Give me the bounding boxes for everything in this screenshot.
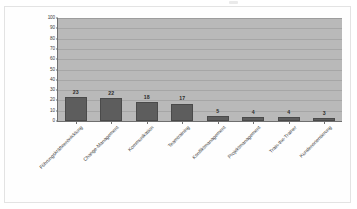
x-axis-category-label: Train-the-Trainer: [268, 125, 297, 154]
bar-slot: 3: [307, 18, 343, 121]
scan-artifact-speck: [229, 1, 238, 4]
bar: [136, 102, 158, 121]
y-axis-tick-label: 20: [50, 98, 55, 103]
x-axis-category-label: Kommunikation: [127, 125, 154, 152]
bar-value-label: 5: [216, 109, 219, 114]
bar-slot: 4: [271, 18, 307, 121]
bar: [313, 118, 335, 121]
bar-value-label: 17: [179, 96, 185, 101]
bar: [242, 117, 264, 121]
x-axis-category-label: Projektmanagement: [227, 125, 262, 160]
bar-value-label: 23: [73, 90, 79, 95]
y-axis-tick-label: 100: [48, 16, 55, 21]
y-axis-tick-label: 70: [50, 47, 55, 52]
bar: [100, 98, 122, 121]
x-axis-category-label: Teamtraining: [167, 125, 190, 148]
category-axis-labels: FührungskräfteentwicklungChange-Manageme…: [58, 123, 343, 207]
bar-value-label: 18: [144, 95, 150, 100]
bar-value-label: 4: [252, 110, 255, 115]
bar-slot: 17: [165, 18, 201, 121]
x-axis-category-label: Kundenorientierung: [299, 125, 333, 159]
y-axis-tick-label: 80: [50, 36, 55, 41]
bar: [65, 97, 87, 121]
y-axis-tick-label: 90: [50, 26, 55, 31]
y-axis-tick-label: 50: [50, 67, 55, 72]
y-axis-tick-label: 60: [50, 57, 55, 62]
bars-layer: 232218175443: [58, 18, 342, 121]
bar: [278, 117, 300, 121]
y-axis-tick-label: 0: [53, 119, 55, 124]
y-axis-tick-label: 40: [50, 78, 55, 83]
bar-value-label: 3: [323, 111, 326, 116]
y-axis-tick-label: 10: [50, 108, 55, 113]
plot-area-wrapper: 1009080706050403020100 232218175443: [57, 18, 342, 122]
bar-chart-figure: 1009080706050403020100 232218175443 Führ…: [0, 0, 357, 209]
bar-slot: 18: [129, 18, 165, 121]
bar-slot: 4: [236, 18, 272, 121]
bar-value-label: 22: [108, 91, 114, 96]
x-axis-category-label: Change-Management: [82, 125, 119, 162]
bar: [171, 104, 193, 122]
bar: [207, 116, 229, 121]
x-axis-category-label: Konfliktmanagement: [191, 125, 226, 160]
bar-slot: 5: [200, 18, 236, 121]
bar-slot: 22: [94, 18, 130, 121]
y-axis-tick-label: 30: [50, 88, 55, 93]
bar-value-label: 4: [287, 110, 290, 115]
bar-slot: 23: [58, 18, 94, 121]
